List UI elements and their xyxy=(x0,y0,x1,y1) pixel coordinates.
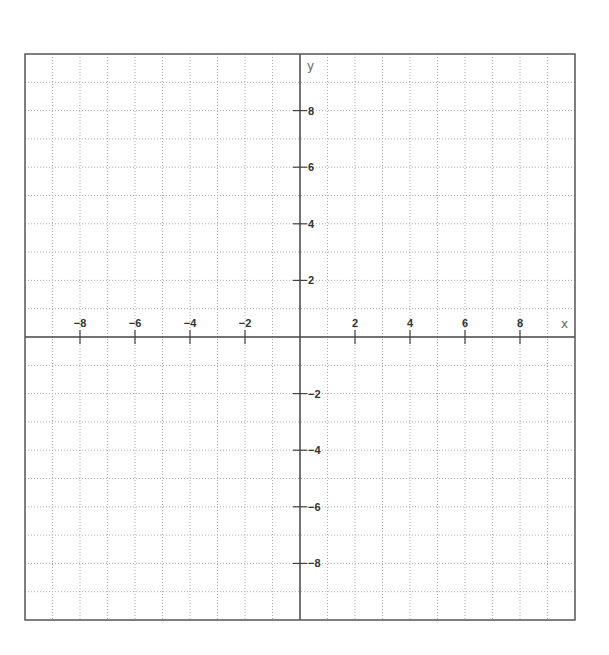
x-tick-label: 8 xyxy=(517,317,523,329)
y-tick-label: 2 xyxy=(308,274,314,286)
x-axis-label: x xyxy=(561,317,568,331)
x-tick-label: −2 xyxy=(239,317,252,329)
y-tick-label: −2 xyxy=(308,388,321,400)
x-tick-label: −4 xyxy=(184,317,197,329)
x-tick-label: −8 xyxy=(74,317,87,329)
x-tick-label: −6 xyxy=(129,317,142,329)
coordinate-plane: −8−6−4−224688642−2−4−6−8 x y xyxy=(0,0,609,655)
y-tick-label: −4 xyxy=(308,444,321,456)
y-tick-label: −8 xyxy=(308,557,321,569)
x-tick-label: 4 xyxy=(407,317,414,329)
x-tick-label: 6 xyxy=(462,317,468,329)
y-tick-label: −6 xyxy=(308,501,321,513)
y-tick-label: 4 xyxy=(308,218,315,230)
y-tick-label: 6 xyxy=(308,161,314,173)
y-axis-label: y xyxy=(307,59,314,73)
x-tick-label: 2 xyxy=(352,317,358,329)
y-tick-label: 8 xyxy=(308,105,314,117)
